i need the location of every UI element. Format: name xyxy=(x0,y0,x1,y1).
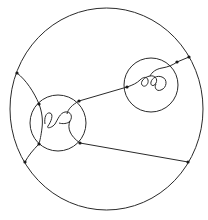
outer-circle xyxy=(10,8,203,210)
diagram-svg xyxy=(0,0,208,220)
arc-left-to-outer-right xyxy=(80,143,188,162)
marked-point xyxy=(78,141,81,144)
marked-point xyxy=(77,99,80,102)
arc-outer-to-left-top xyxy=(17,73,39,104)
arc-left-bottom-to-outer xyxy=(25,144,39,162)
right-tangle-strand-a xyxy=(127,76,166,91)
marked-point xyxy=(37,102,40,105)
marked-point xyxy=(23,160,26,163)
marked-point xyxy=(175,60,178,63)
marked-point xyxy=(187,55,190,58)
arc-right-ball-to-outer xyxy=(177,57,189,62)
marked-point xyxy=(125,85,128,88)
marked-point xyxy=(37,142,40,145)
marked-point xyxy=(15,71,18,74)
marked-point xyxy=(186,160,189,163)
arc-left-to-right-ball xyxy=(79,87,127,101)
left-tangle-strand-b xyxy=(45,112,72,128)
knot-diagram xyxy=(0,0,208,220)
left-tangle-strand-a xyxy=(39,104,42,144)
left-tangle-strand-d xyxy=(69,121,80,143)
